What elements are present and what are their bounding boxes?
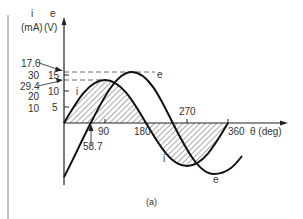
current-tick-20: 20 bbox=[28, 91, 40, 102]
e-curve-label-upper: e bbox=[157, 69, 163, 80]
voltage-tick-5: 5 bbox=[52, 102, 58, 113]
x-tick-180: 180 bbox=[134, 126, 151, 137]
current-symbol: i bbox=[31, 8, 33, 19]
x-axis-label: θ (deg) bbox=[250, 126, 282, 137]
phase-label: 58.7 bbox=[83, 141, 103, 152]
x-tick-270: 270 bbox=[179, 106, 196, 117]
x-tick-90: 90 bbox=[98, 126, 110, 137]
e-curve-label-lower: e bbox=[213, 174, 219, 185]
current-tick-10: 10 bbox=[28, 103, 40, 114]
x-tick-360: 360 bbox=[228, 126, 245, 137]
voltage-tick-10: 10 bbox=[48, 86, 60, 97]
voltage-tick-15: 15 bbox=[48, 70, 60, 81]
current-tick-30: 30 bbox=[28, 70, 40, 81]
current-unit: (mA) bbox=[21, 22, 43, 33]
i-curve-label-upper: i bbox=[76, 86, 78, 97]
e-peak-label: 17.0 bbox=[21, 58, 41, 69]
y-axis-arrow bbox=[62, 17, 67, 25]
i-curve-label-lower: i bbox=[163, 153, 165, 164]
voltage-symbol: e bbox=[50, 8, 56, 19]
x-axis-arrow bbox=[280, 121, 288, 126]
phase-diagram: i e (mA) (V) 17.0 30 15 29.4 20 10 10 5 … bbox=[0, 0, 303, 219]
voltage-unit: (V) bbox=[44, 22, 57, 33]
figure-caption: (a) bbox=[146, 197, 157, 207]
